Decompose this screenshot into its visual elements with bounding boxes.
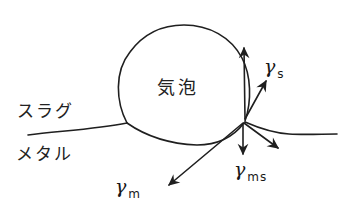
bubble-label: 気泡 [157, 79, 199, 97]
gamma-ms-subscript: ms [247, 170, 267, 184]
bubble-outline [118, 25, 249, 123]
gamma-m-symbol: γ [115, 175, 126, 197]
gamma-m-arrow [169, 123, 243, 185]
gamma-s-arrow [245, 81, 266, 119]
bubble-bottom-curve [127, 123, 244, 145]
gamma-m-subscript: m [128, 187, 141, 201]
figure-canvas: 気泡 スラグ メタル γs γm γms [0, 0, 356, 208]
gamma-s-label: γs [264, 57, 283, 76]
down-right-arrow [244, 123, 278, 148]
interface-line-right [245, 122, 337, 134]
gamma-s-subscript: s [277, 67, 284, 81]
metal-label: メタル [16, 146, 73, 163]
gamma-ms-symbol: γ [234, 158, 245, 180]
interface-line-left [28, 123, 127, 135]
gamma-m-label: γm [115, 177, 139, 196]
gamma-s-symbol: γ [264, 55, 275, 77]
upward-arrow [244, 48, 245, 119]
gamma-ms-label: γms [234, 160, 265, 179]
slag-label: スラグ [17, 103, 74, 120]
